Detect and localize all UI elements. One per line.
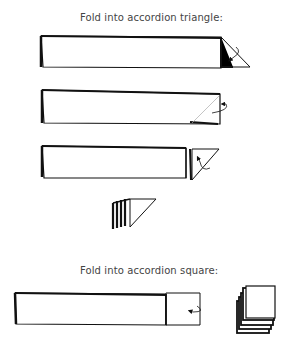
step3-strip [42,146,219,180]
folding-diagram [0,0,285,344]
square-strip [15,293,201,325]
accordion-square-stack [237,286,275,333]
step1-strip [41,36,250,68]
accordion-triangle-stack [113,199,156,229]
step2-strip [42,90,227,124]
